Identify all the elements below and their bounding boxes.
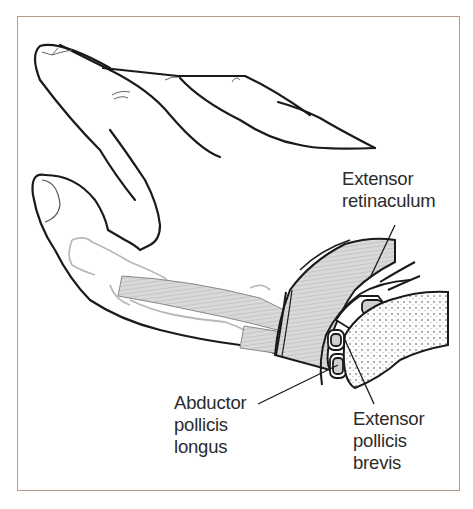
thumbnail bbox=[42, 180, 60, 222]
label-line: pollicis bbox=[174, 414, 246, 436]
finger-creases bbox=[42, 48, 240, 99]
label-line: Abductor bbox=[174, 392, 246, 414]
thumb-palm-outline bbox=[33, 130, 296, 360]
middle-ring-fingers bbox=[103, 68, 375, 149]
label-line: Extensor bbox=[342, 168, 435, 190]
label-line: Extensor bbox=[353, 408, 424, 430]
label-extensor-pollicis-brevis: Extensor pollicis brevis bbox=[353, 408, 424, 474]
label-line: pollicis bbox=[353, 430, 424, 452]
label-abductor-pollicis-longus: Abductor pollicis longus bbox=[174, 392, 246, 458]
label-line: brevis bbox=[353, 452, 424, 474]
label-line: longus bbox=[174, 436, 246, 458]
leader-apl bbox=[258, 365, 338, 404]
label-line: retinaculum bbox=[342, 190, 435, 212]
label-extensor-retinaculum: Extensor retinaculum bbox=[342, 168, 435, 212]
